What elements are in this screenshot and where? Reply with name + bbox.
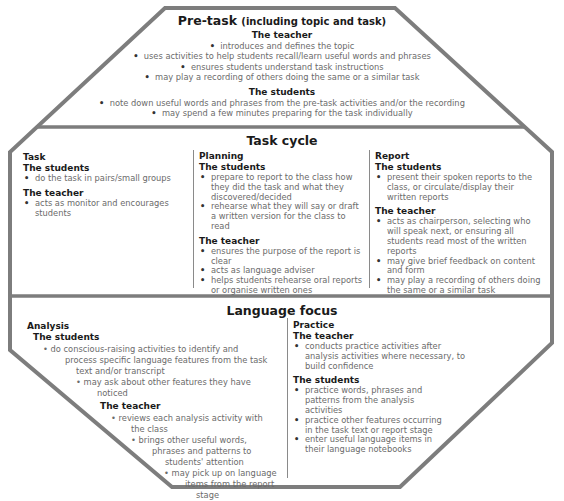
list-item: • note down useful words and phrases fro… [0, 98, 564, 108]
list-item: • do conscious-raising activities to ide… [43, 344, 238, 354]
list-item: •practice words, phrases and patterns fr… [293, 386, 448, 415]
pre-task-students-heading: The students [0, 87, 564, 98]
list-item: • brings other useful words, [131, 435, 247, 445]
list-item: •may give brief feedback on content and … [375, 257, 545, 277]
list-item: •do the task in pairs/small groups [23, 174, 188, 184]
list-item: •practice other features occurring in th… [293, 416, 448, 436]
list-item: •helps students rehearse oral reports or… [199, 276, 364, 296]
list-item: • ensures students understand task instr… [0, 62, 564, 72]
pre-task-students-list: • note down useful words and phrases fro… [0, 98, 564, 119]
report-column: Report The students •present their spoke… [375, 151, 545, 296]
analysis-students-heading: The students [33, 332, 99, 343]
list-item: • may ask about other features they have [76, 377, 251, 387]
list-item: • introduces and defines the topic [0, 41, 564, 51]
list-item-continuation: noticed [97, 388, 128, 398]
list-item: • may pick up on language [164, 468, 277, 478]
task-column: Task The students •do the task in pairs/… [23, 152, 188, 218]
list-item: •rehearse what they will say or draft a … [199, 202, 364, 231]
pre-task-teacher-heading: The teacher [0, 30, 564, 41]
list-item: •acts as chairperson, selecting who will… [375, 217, 545, 256]
list-item: •ensures the purpose of the report is cl… [199, 247, 364, 267]
practice-column: Practice The teacher •conducts practice … [293, 320, 468, 455]
planning-column: Planning The students •prepare to report… [199, 151, 364, 296]
list-item-continuation: items from the report [185, 479, 274, 489]
pre-task-title: Pre-task (including topic and task) [0, 13, 564, 28]
list-item-continuation: students' attention [165, 457, 244, 467]
list-item: •may play a recording of others doing th… [375, 276, 545, 296]
report-label: Report [375, 151, 545, 162]
practice-label: Practice [293, 320, 468, 331]
task-cycle-title: Task cycle [0, 133, 564, 148]
task-label: Task [23, 152, 188, 163]
language-focus-title: Language focus [0, 303, 564, 318]
list-item: • reviews each analysis activity with [111, 413, 263, 423]
list-item-continuation: process specific language features from … [65, 355, 267, 365]
column-divider [193, 150, 194, 288]
list-item: •present their spoken reports to the cla… [375, 173, 545, 202]
analysis-label: Analysis [27, 321, 69, 332]
list-item: •acts as monitor and encourages students [23, 199, 173, 219]
list-item: •conducts practice activities after anal… [293, 342, 468, 371]
column-divider [287, 318, 288, 478]
pre-task-teacher-list: • introduces and defines the topic • use… [0, 41, 564, 83]
column-divider [369, 150, 370, 288]
list-item-continuation: the class [131, 424, 168, 434]
list-item: •enter useful language items in their la… [293, 435, 448, 455]
planning-label: Planning [199, 151, 364, 162]
list-item: • may spend a few minutes preparing for … [0, 108, 564, 118]
list-item: • uses activities to help students recal… [0, 51, 564, 61]
list-item: • may play a recording of others doing t… [0, 72, 564, 82]
list-item-continuation: text and/or transcript [76, 366, 165, 376]
list-item: •prepare to report to the class how they… [199, 173, 364, 202]
analysis-teacher-heading: The teacher [100, 401, 161, 412]
list-item-continuation: phrases and patterns to [152, 446, 251, 456]
list-item-continuation: stage [196, 490, 219, 500]
